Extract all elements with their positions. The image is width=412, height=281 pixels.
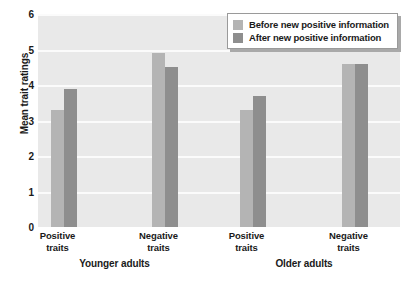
x-axis-group-label: Older adults (229, 258, 379, 269)
category-label-line1: Negative (311, 230, 387, 242)
y-axis-tick-label: 6 (14, 9, 34, 20)
legend-swatch-icon (233, 33, 243, 43)
legend-item-label: Before new positive information (249, 19, 389, 30)
category-label-line2: traits (20, 242, 96, 254)
x-axis-category-labels: PositivetraitsNegativetraitsPositivetrai… (38, 230, 400, 256)
y-axis-tick-label: 3 (14, 115, 34, 126)
x-axis-group-labels: Younger adultsOlder adults (38, 258, 400, 274)
y-axis-tick-label: 2 (14, 151, 34, 162)
bar (64, 89, 77, 227)
legend-item: Before new positive information (233, 18, 389, 31)
bar (51, 110, 64, 227)
bar (165, 67, 178, 227)
chart-legend: Before new positive informationAfter new… (227, 13, 398, 49)
legend-item-label: After new positive information (249, 32, 381, 43)
y-axis-tick-label: 5 (14, 44, 34, 55)
x-axis-category-label: Positivetraits (20, 230, 96, 253)
bar (342, 64, 355, 227)
y-axis-tick-label: 4 (14, 80, 34, 91)
bar-chart-figure: Mean trait ratings 6543210 Before new po… (0, 0, 412, 281)
category-label-line2: traits (311, 242, 387, 254)
category-label-line2: traits (209, 242, 285, 254)
x-axis-category-label: Positivetraits (209, 230, 285, 253)
bar (240, 110, 253, 227)
x-axis-category-label: Negativetraits (121, 230, 197, 253)
legend-item: After new positive information (233, 31, 389, 44)
x-axis-group-label: Younger adults (40, 258, 190, 269)
category-label-line1: Negative (121, 230, 197, 242)
category-label-line2: traits (121, 242, 197, 254)
bar (355, 64, 368, 227)
x-axis-category-label: Negativetraits (311, 230, 387, 253)
y-axis-tick-label: 1 (14, 186, 34, 197)
bar (152, 53, 165, 227)
legend-swatch-icon (233, 20, 243, 30)
bar (253, 96, 266, 227)
category-label-line1: Positive (20, 230, 96, 242)
category-label-line1: Positive (209, 230, 285, 242)
